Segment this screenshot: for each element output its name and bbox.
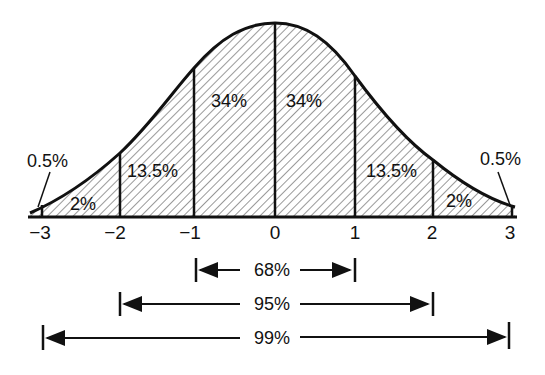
region-label-minus2-minus1: 13.5% xyxy=(127,162,178,180)
hatched-area xyxy=(30,23,515,217)
region-label-minus3-minus2: 2% xyxy=(70,195,96,213)
tail-left-leader xyxy=(38,172,50,207)
tail-right-leader xyxy=(498,172,510,205)
tick-label-minus3: −3 xyxy=(29,223,51,242)
span-label-95: 95% xyxy=(250,295,294,313)
span-label-99: 99% xyxy=(250,329,294,347)
region-label-plus1-plus2: 13.5% xyxy=(366,162,417,180)
tick-label-zero: 0 xyxy=(270,223,281,242)
tail-right-label: 0.5% xyxy=(480,150,521,168)
region-label-plus2-plus3: 2% xyxy=(446,192,472,210)
tick-label-minus1: −1 xyxy=(179,223,201,242)
region-label-minus1-zero: 34% xyxy=(211,92,247,110)
region-label-zero-plus1: 34% xyxy=(286,92,322,110)
tick-label-minus2: −2 xyxy=(104,223,126,242)
tick-label-plus3: 3 xyxy=(505,223,516,242)
tick-label-plus1: 1 xyxy=(350,223,361,242)
tick-label-plus2: 2 xyxy=(427,223,438,242)
span-label-68: 68% xyxy=(250,261,294,279)
bell-curve-graphic xyxy=(0,0,545,375)
tail-left-label: 0.5% xyxy=(27,152,68,170)
normal-distribution-diagram: 0.5% 2% 13.5% 34% 34% 13.5% 2% 0.5% −3 −… xyxy=(0,0,545,375)
